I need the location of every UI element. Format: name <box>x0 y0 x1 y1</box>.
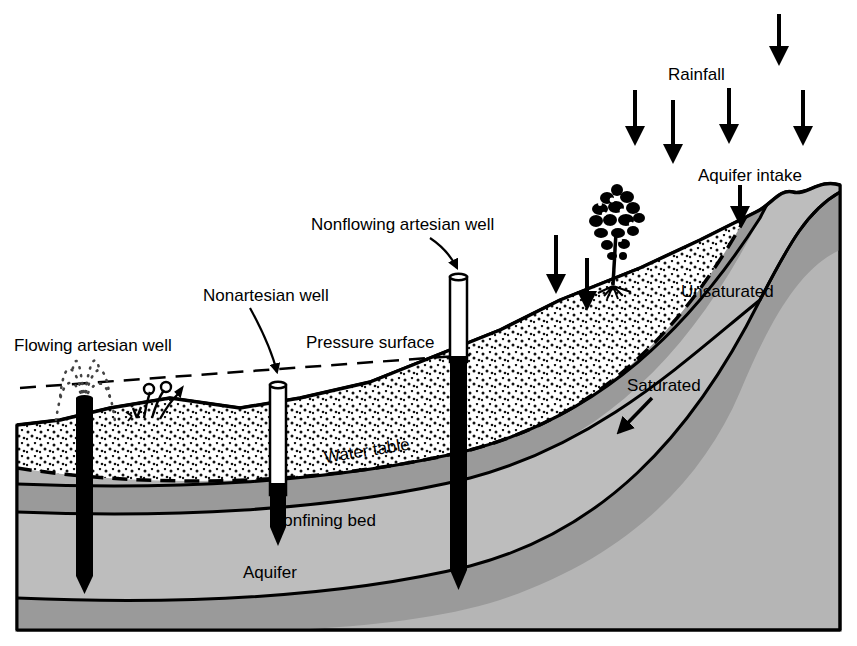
nonartesian-well-casing <box>270 385 286 495</box>
unsaturated-label: Unsaturated <box>681 282 774 301</box>
flowing-artesian-well-label: Flowing artesian well <box>14 336 172 355</box>
nonartesian-well-label: Nonartesian well <box>203 286 329 305</box>
nonflowing-well-screen <box>450 356 467 570</box>
aquifer-cross-section-diagram: Rainfall Aquifer intake Unsaturated Satu… <box>0 0 857 646</box>
aquifer-intake-label: Aquifer intake <box>698 166 802 185</box>
saturated-label: Saturated <box>627 376 701 395</box>
aquifer-label: Aquifer <box>243 563 297 582</box>
nonartesian-well-leader <box>250 308 277 372</box>
nonflowing-well-leader <box>430 238 457 268</box>
nonflowing-well-casing <box>450 277 467 362</box>
nonartesian-well-top <box>270 382 286 388</box>
rainfall-label: Rainfall <box>668 65 725 84</box>
flowing-well-top <box>76 395 93 401</box>
flowing-well-casing <box>76 398 93 576</box>
pressure-surface-label: Pressure surface <box>306 333 435 352</box>
confining-bed-label: Confining bed <box>271 511 376 530</box>
diagram-canvas: Rainfall Aquifer intake Unsaturated Satu… <box>0 0 857 646</box>
nonflowing-artesian-well <box>450 274 467 590</box>
nonflowing-artesian-well-label: Nonflowing artesian well <box>311 215 494 234</box>
nonflowing-well-top <box>450 274 467 280</box>
